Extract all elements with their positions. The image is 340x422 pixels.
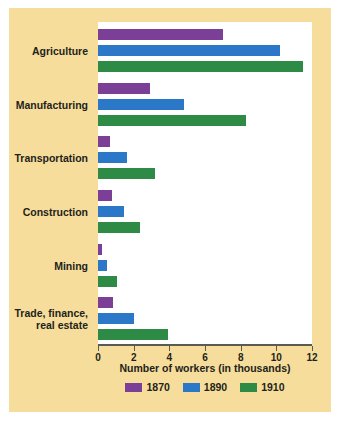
bar bbox=[98, 244, 102, 255]
bar-group bbox=[98, 83, 312, 130]
legend-label: 1870 bbox=[146, 381, 169, 393]
bars-layer bbox=[98, 22, 312, 344]
x-tick bbox=[169, 346, 170, 351]
bar bbox=[98, 136, 110, 147]
legend-label: 1890 bbox=[204, 381, 227, 393]
x-tick bbox=[98, 346, 99, 351]
bar bbox=[98, 190, 112, 201]
bar-group bbox=[98, 136, 312, 183]
legend-item[interactable]: 1910 bbox=[240, 381, 284, 393]
bar bbox=[98, 276, 117, 287]
category-label: Transportation bbox=[9, 152, 93, 164]
bar-group bbox=[98, 244, 312, 291]
bar-group bbox=[98, 297, 312, 344]
bar bbox=[98, 206, 124, 217]
bar bbox=[98, 329, 168, 340]
bar-group bbox=[98, 29, 312, 76]
bar bbox=[98, 115, 246, 126]
bar bbox=[98, 168, 155, 179]
x-tick bbox=[134, 346, 135, 351]
chart-figure: AgricultureManufacturingTransportationCo… bbox=[0, 0, 340, 422]
category-label: Agriculture bbox=[9, 45, 93, 57]
category-label: Construction bbox=[9, 206, 93, 218]
legend-swatch-icon bbox=[125, 383, 142, 392]
bar-group bbox=[98, 190, 312, 237]
bar bbox=[98, 61, 303, 72]
x-tick bbox=[241, 346, 242, 351]
bar bbox=[98, 45, 280, 56]
bar bbox=[98, 99, 184, 110]
x-tick bbox=[205, 346, 206, 351]
legend-swatch-icon bbox=[240, 383, 257, 392]
bar bbox=[98, 222, 140, 233]
bar bbox=[98, 260, 107, 271]
x-axis-title: Number of workers (in thousands) bbox=[98, 362, 312, 374]
legend-label: 1910 bbox=[261, 381, 284, 393]
category-label: Mining bbox=[9, 260, 93, 272]
category-label: Trade, finance, real estate bbox=[9, 307, 93, 331]
category-label: Manufacturing bbox=[9, 99, 93, 111]
chart-legend: 187018901910 bbox=[98, 381, 312, 393]
bar bbox=[98, 297, 113, 308]
chart-panel: AgricultureManufacturingTransportationCo… bbox=[9, 8, 331, 412]
bar bbox=[98, 313, 134, 324]
plot-area bbox=[98, 22, 312, 344]
bar bbox=[98, 83, 150, 94]
category-label-layer: AgricultureManufacturingTransportationCo… bbox=[9, 22, 93, 344]
x-tick bbox=[312, 346, 313, 351]
bar bbox=[98, 152, 127, 163]
legend-item[interactable]: 1890 bbox=[183, 381, 227, 393]
legend-swatch-icon bbox=[183, 383, 200, 392]
legend-item[interactable]: 1870 bbox=[125, 381, 169, 393]
bar bbox=[98, 29, 223, 40]
x-tick bbox=[276, 346, 277, 351]
